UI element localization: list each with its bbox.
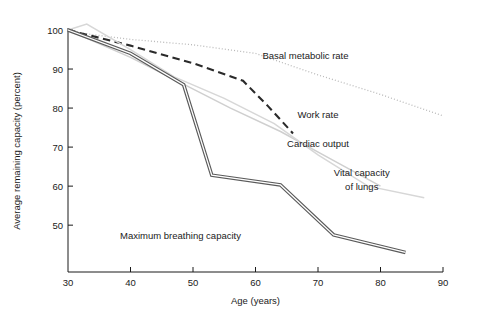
- y-tick-label: 80: [52, 103, 63, 114]
- y-tick-label: 60: [52, 181, 63, 192]
- y-axis-title: Average remaining capacity (percent): [11, 72, 22, 230]
- annotation-label: Cardiac output: [287, 138, 349, 149]
- annotation-label: of lungs: [345, 181, 379, 192]
- x-tick-label: 90: [438, 277, 449, 288]
- series-line-basal-metabolic-rate: [68, 30, 443, 116]
- series-line-maximum-breathing-capacity: [68, 30, 406, 252]
- y-tick-label: 100: [47, 25, 63, 36]
- x-tick-label: 70: [313, 277, 324, 288]
- series-annotations: Basal metabolic rateWork rateCardiac out…: [120, 50, 390, 241]
- annotation-label: Maximum breathing capacity: [120, 230, 241, 241]
- y-tick-label: 90: [52, 64, 63, 75]
- x-tick-label: 80: [375, 277, 386, 288]
- y-tick-label: 70: [52, 142, 63, 153]
- annotation-label: Vital capacity: [334, 167, 390, 178]
- annotation-label: Work rate: [297, 109, 338, 120]
- annotation-label: Basal metabolic rate: [262, 50, 348, 61]
- chart-series: [68, 24, 443, 252]
- series-line-maximum-breathing-capacity-inner: [68, 30, 406, 252]
- chart-axes: 304050607080905060708090100Age (years)Av…: [11, 25, 448, 307]
- line-chart: 304050607080905060708090100Age (years)Av…: [0, 0, 481, 315]
- x-tick-label: 60: [250, 277, 261, 288]
- x-tick-label: 50: [188, 277, 199, 288]
- x-tick-label: 40: [125, 277, 136, 288]
- y-tick-label: 50: [52, 220, 63, 231]
- x-tick-label: 30: [63, 277, 74, 288]
- chart-container: 304050607080905060708090100Age (years)Av…: [0, 0, 481, 315]
- x-axis-title: Age (years): [231, 295, 280, 306]
